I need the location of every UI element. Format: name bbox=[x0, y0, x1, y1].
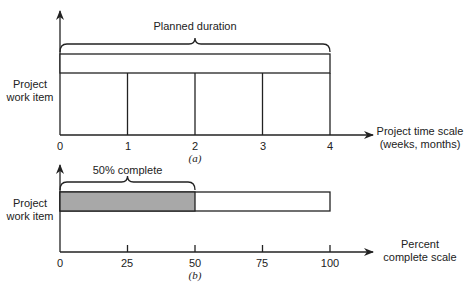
a-brace-label: Planned duration bbox=[153, 20, 236, 32]
b-tick-label: 100 bbox=[321, 257, 339, 269]
b-y-label-line2: work item bbox=[5, 210, 53, 222]
b-brace bbox=[60, 176, 195, 190]
a-brace bbox=[60, 38, 330, 52]
b-brace-label: 50% complete bbox=[93, 164, 163, 176]
diagram-a: Planned duration Project work item 0 1 2… bbox=[5, 11, 463, 165]
b-tick-label: 75 bbox=[256, 257, 268, 269]
b-complete-fill bbox=[60, 192, 195, 211]
b-tick-label: 50 bbox=[189, 257, 201, 269]
a-tick-label: 4 bbox=[327, 140, 333, 152]
a-gridlines bbox=[128, 73, 331, 135]
a-tick-label: 0 bbox=[57, 140, 63, 152]
b-tick-label: 25 bbox=[121, 257, 133, 269]
a-planned-bar bbox=[60, 54, 330, 73]
a-caption: (a) bbox=[189, 152, 202, 165]
a-tick-label: 1 bbox=[125, 140, 131, 152]
b-caption: (b) bbox=[189, 269, 202, 282]
diagram-b: 50% complete Project work item 0 25 50 7… bbox=[5, 164, 456, 282]
b-x-axis-label-line1: Percent bbox=[401, 238, 439, 250]
b-y-label-line1: Project bbox=[13, 197, 47, 209]
a-tick-label: 2 bbox=[192, 140, 198, 152]
b-x-axis-label-line2: complete scale bbox=[383, 251, 456, 263]
b-ticks bbox=[128, 245, 331, 252]
a-x-axis-label-line1: Project time scale bbox=[377, 125, 464, 137]
diagram-canvas: Planned duration Project work item 0 1 2… bbox=[0, 0, 470, 289]
b-tick-label: 0 bbox=[57, 257, 63, 269]
a-x-axis-label-line2: (weeks, months) bbox=[380, 138, 461, 150]
a-y-label-line2: work item bbox=[5, 91, 53, 103]
a-y-label-line1: Project bbox=[13, 78, 47, 90]
a-tick-label: 3 bbox=[260, 140, 266, 152]
